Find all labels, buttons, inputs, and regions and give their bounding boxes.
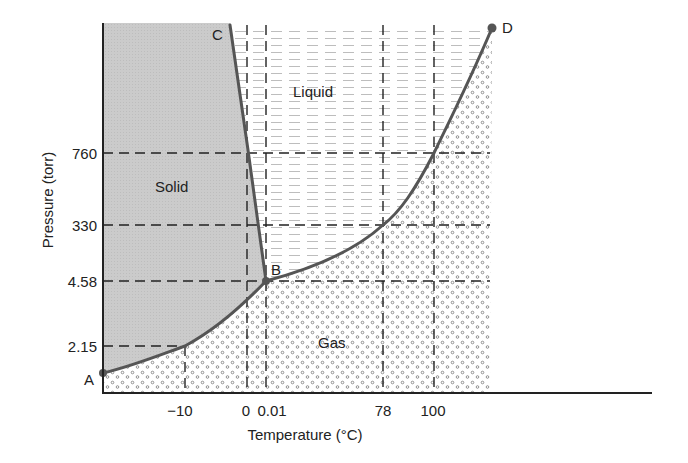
ytick-2-15: 2.15 (68, 338, 97, 355)
ytick-760: 760 (72, 145, 97, 162)
point-b-marker (262, 277, 270, 285)
xtick-m10: −10 (167, 402, 192, 419)
xtick-100: 100 (420, 402, 445, 419)
liquid-label: Liquid (293, 83, 333, 100)
solid-label: Solid (155, 178, 188, 195)
xtick-78: 78 (375, 402, 392, 419)
point-d-label: D (502, 19, 513, 36)
gas-label: Gas (318, 334, 346, 351)
point-a-label: A (84, 371, 94, 388)
y-axis-title: Pressure (torr) (39, 152, 56, 249)
point-b-label: B (271, 261, 281, 278)
ytick-4-58: 4.58 (68, 273, 97, 290)
x-axis-title: Temperature (°C) (247, 426, 362, 443)
point-d-marker (488, 24, 497, 33)
xtick-0: 0 (242, 402, 250, 419)
phase-diagram-chart: Solid Liquid Gas A B C D 760 330 4.58 2.… (0, 0, 688, 463)
xtick-0-01: 0.01 (257, 402, 286, 419)
ytick-330: 330 (72, 217, 97, 234)
point-c-label: C (212, 26, 223, 43)
